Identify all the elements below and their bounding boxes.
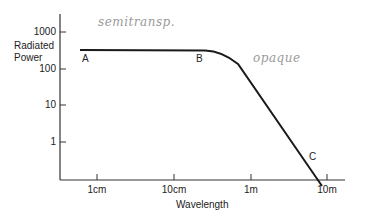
handwritten-note-semitransp: semitransp. <box>98 15 175 29</box>
point-label-c: C <box>309 151 316 162</box>
x-tick-1cm: 1cm <box>77 184 117 195</box>
y-ticks <box>60 32 66 142</box>
handwritten-note-opaque: opaque <box>253 51 301 65</box>
y-tick-1: 1 <box>16 136 56 147</box>
y-tick-1000: 1000 <box>16 26 56 37</box>
y-axis-label: Radiated Power <box>14 40 54 64</box>
x-tick-10cm: 10cm <box>154 184 194 195</box>
x-axis-label: Wavelength <box>176 199 228 210</box>
y-axis-label-line1: Radiated <box>14 40 54 52</box>
x-tick-1m: 1m <box>231 184 271 195</box>
x-tick-10m: 10m <box>307 184 347 195</box>
power-curve <box>80 50 322 186</box>
y-tick-10: 10 <box>16 99 56 110</box>
x-ticks <box>97 174 327 180</box>
y-tick-100: 100 <box>16 63 56 74</box>
point-label-a: A <box>82 53 89 64</box>
point-label-b: B <box>196 53 203 64</box>
